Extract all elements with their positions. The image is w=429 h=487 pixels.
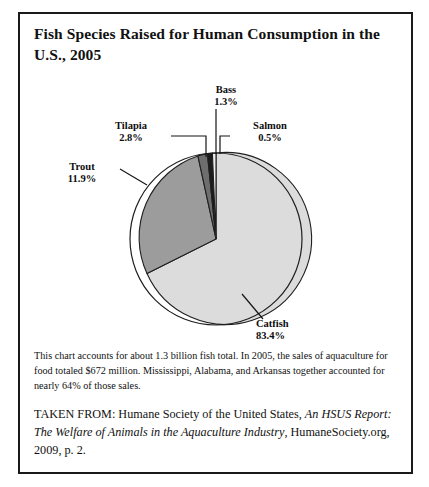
figure-frame: Fish Species Raised for Human Consumptio… — [18, 12, 413, 474]
pie-label-catfish-name: Catfish — [256, 318, 289, 329]
pie-label-trout: Trout 11.9% — [46, 161, 118, 186]
pie-label-tilapia-name: Tilapia — [115, 120, 147, 131]
pie-label-salmon-value: 0.5% — [232, 132, 308, 144]
pie-label-bass-value: 1.3% — [190, 96, 262, 108]
pie-label-salmon-name: Salmon — [253, 120, 287, 131]
pie-label-tilapia-value: 2.8% — [94, 132, 168, 144]
chart-footnote: This chart accounts for about 1.3 billio… — [34, 349, 402, 393]
pie-label-trout-value: 11.9% — [46, 173, 118, 185]
pie-label-salmon: Salmon 0.5% — [232, 120, 308, 145]
leader-line-trout — [120, 169, 147, 185]
pie-label-catfish: Catfish 83.4% — [256, 318, 344, 343]
pie-chart: Bass 1.3% Tilapia 2.8% Salmon 0.5% Trout… — [20, 66, 411, 344]
pie-label-trout-name: Trout — [69, 161, 94, 172]
pie-label-catfish-value: 83.4% — [256, 330, 344, 342]
leader-line-salmon — [220, 136, 230, 154]
pie-label-bass: Bass 1.3% — [190, 84, 262, 109]
page-title: Fish Species Raised for Human Consumptio… — [34, 24, 394, 66]
pie-label-bass-name: Bass — [216, 84, 236, 95]
pie-label-tilapia: Tilapia 2.8% — [94, 120, 168, 145]
attribution-prefix: TAKEN FROM: Humane Society of the United… — [34, 407, 305, 421]
source-attribution: TAKEN FROM: Humane Society of the United… — [34, 406, 402, 459]
